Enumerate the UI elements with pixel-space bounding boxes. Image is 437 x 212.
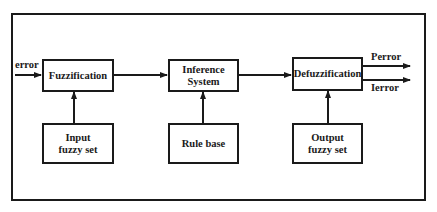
defuzzification-label: Defuzzification xyxy=(294,68,362,80)
inference-label-line1: Inference xyxy=(182,64,224,76)
output-set-label-line2: fuzzy set xyxy=(308,144,347,156)
error-label: error xyxy=(15,59,39,70)
fuzzification-block: Fuzzification xyxy=(42,59,114,92)
fuzzification-label: Fuzzification xyxy=(49,70,107,82)
output-fuzzy-set-block: Output fuzzy set xyxy=(292,123,363,164)
perror-label: Perror xyxy=(371,51,401,62)
defuzzification-block: Defuzzification xyxy=(292,57,363,91)
input-set-label-line2: fuzzy set xyxy=(59,144,98,156)
output-set-label-line1: Output xyxy=(308,132,347,144)
input-set-label-line1: Input xyxy=(59,132,98,144)
input-fuzzy-set-block: Input fuzzy set xyxy=(42,123,114,164)
inference-label-line2: System xyxy=(182,76,224,88)
connection-arrows xyxy=(0,0,437,212)
rule-base-block: Rule base xyxy=(168,123,239,164)
ierror-label: Ierror xyxy=(371,82,399,93)
inference-system-block: Inference System xyxy=(168,59,239,92)
rule-base-label: Rule base xyxy=(182,138,225,150)
